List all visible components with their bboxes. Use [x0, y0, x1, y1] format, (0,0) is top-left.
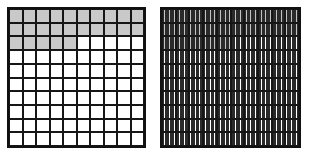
grid-cell-empty: [258, 64, 272, 78]
cell-subdivision-strips: [190, 65, 202, 77]
grid-cell-empty: [176, 119, 190, 133]
grid-cell-empty: [9, 64, 23, 78]
cell-subdivision-strips: [190, 133, 202, 145]
grid-row: [162, 105, 299, 119]
grid-cell-empty: [231, 50, 245, 64]
grid-cell-empty: [217, 119, 231, 133]
grid-cell-empty: [117, 132, 131, 146]
grid-cell-empty: [244, 64, 258, 78]
cell-subdivision-strips: [190, 79, 202, 91]
grid-cell-shaded: [231, 9, 245, 23]
grid-cell-empty: [131, 78, 145, 92]
grid-row: [9, 36, 144, 50]
grid-cell-empty: [104, 132, 118, 146]
grid-cell-empty: [176, 105, 190, 119]
cell-subdivision-strips: [190, 24, 202, 36]
cell-subdivision-strips: [273, 51, 285, 63]
cell-subdivision-strips: [273, 10, 285, 22]
grid-cell-shaded: [50, 23, 64, 37]
cell-subdivision-strips: [204, 10, 216, 22]
grid-row: [162, 50, 299, 64]
cell-subdivision-strips: [163, 120, 175, 132]
grid-cell-empty: [258, 132, 272, 146]
grid-cell-empty: [244, 78, 258, 92]
cell-subdivision-strips: [177, 106, 189, 118]
grid-cell-empty: [117, 64, 131, 78]
grid-cell-empty: [285, 105, 299, 119]
cell-subdivision-strips: [204, 106, 216, 118]
grid-cell-shaded: [131, 9, 145, 23]
cell-subdivision-strips: [190, 10, 202, 22]
grid-cell-empty: [176, 132, 190, 146]
cell-subdivision-strips: [245, 92, 257, 104]
grid-cell-empty: [63, 78, 77, 92]
grid-cell-empty: [258, 105, 272, 119]
grid-cell-empty: [90, 78, 104, 92]
cell-subdivision-strips: [259, 51, 271, 63]
cell-subdivision-strips: [163, 106, 175, 118]
grid-cell-empty: [189, 132, 203, 146]
grid-cell-empty: [176, 78, 190, 92]
grid-cell-empty: [104, 105, 118, 119]
grid-cell-empty: [162, 64, 176, 78]
cell-subdivision-strips: [232, 133, 244, 145]
cell-subdivision-strips: [218, 51, 230, 63]
cell-subdivision-strips: [163, 24, 175, 36]
grid-cell-empty: [176, 91, 190, 105]
grid-cell-empty: [231, 78, 245, 92]
grid-cell-shaded: [217, 36, 231, 50]
grid-cell-empty: [162, 50, 176, 64]
grid-cell-empty: [285, 50, 299, 64]
grid-row: [162, 132, 299, 146]
grid-cell-empty: [90, 50, 104, 64]
grid-row: [9, 91, 144, 105]
cell-subdivision-strips: [273, 106, 285, 118]
figure-canvas: [0, 0, 309, 156]
cell-subdivision-strips: [273, 24, 285, 36]
grid-row: [9, 78, 144, 92]
grid-cell-empty: [23, 50, 37, 64]
grid-cell-empty: [117, 105, 131, 119]
grid-cell-shaded: [285, 9, 299, 23]
grid-cell-empty: [189, 78, 203, 92]
grid-cell-empty: [63, 50, 77, 64]
grid-cell-shaded: [77, 9, 91, 23]
grid-cell-empty: [90, 105, 104, 119]
grid-cell-empty: [117, 50, 131, 64]
grid-cell-empty: [104, 64, 118, 78]
grid-cell-empty: [77, 36, 91, 50]
cell-subdivision-strips: [245, 79, 257, 91]
grid-cell-empty: [77, 105, 91, 119]
cell-subdivision-strips: [273, 37, 285, 49]
grid-cell-shaded: [131, 23, 145, 37]
grid-cell-empty: [23, 119, 37, 133]
grid-cell-empty: [23, 78, 37, 92]
grid-cell-shaded: [203, 23, 217, 37]
cell-subdivision-strips: [177, 24, 189, 36]
grid-cell-empty: [131, 105, 145, 119]
grid-cell-shaded: [63, 23, 77, 37]
cell-subdivision-strips: [259, 10, 271, 22]
grid-cell-shaded: [285, 23, 299, 37]
cell-subdivision-strips: [245, 37, 257, 49]
grid-cell-empty: [36, 78, 50, 92]
grid-cell-shaded: [231, 23, 245, 37]
grid-cell-empty: [9, 105, 23, 119]
grid-cell-shaded: [63, 9, 77, 23]
grid-cell-shaded: [162, 36, 176, 50]
cell-subdivision-strips: [259, 37, 271, 49]
grid-cell-empty: [285, 119, 299, 133]
cell-subdivision-strips: [286, 65, 298, 77]
grid-cell-shaded: [36, 9, 50, 23]
hundredths-grid-rows: [9, 9, 144, 146]
grid-cell-shaded: [272, 9, 286, 23]
cell-subdivision-strips: [273, 79, 285, 91]
grid-cell-empty: [189, 105, 203, 119]
grid-cell-empty: [258, 50, 272, 64]
grid-cell-empty: [217, 91, 231, 105]
grid-cell-empty: [217, 78, 231, 92]
cell-subdivision-strips: [177, 65, 189, 77]
grid-cell-empty: [217, 105, 231, 119]
grid-row: [162, 91, 299, 105]
grid-cell-empty: [189, 50, 203, 64]
